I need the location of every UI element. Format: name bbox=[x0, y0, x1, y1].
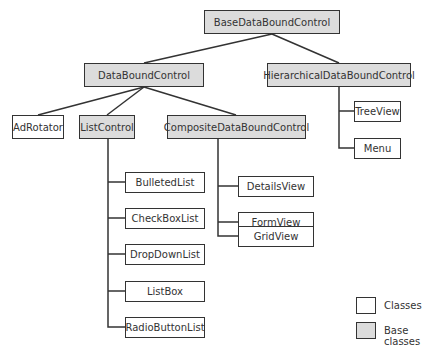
node-databoundcontrol: DataBoundControl bbox=[84, 63, 204, 87]
node-label: BulletedList bbox=[136, 177, 195, 188]
node-label: DataBoundControl bbox=[98, 70, 190, 81]
node-label: AdRotator bbox=[13, 122, 63, 133]
node-listbox: ListBox bbox=[125, 281, 205, 302]
node-bulletedlist: BulletedList bbox=[125, 172, 205, 193]
legend-classes-label: Classes bbox=[384, 300, 422, 311]
node-label: ListBox bbox=[147, 286, 183, 297]
legend-base-classes-label: Base classes bbox=[384, 325, 446, 347]
legend-base-classes-swatch bbox=[356, 322, 376, 339]
connector-lines bbox=[0, 0, 446, 350]
node-gridview: GridView bbox=[238, 226, 314, 247]
node-label: CheckBoxList bbox=[132, 213, 199, 224]
node-label: BaseDataBoundControl bbox=[214, 17, 330, 28]
node-label: HierarchicalDataBoundControl bbox=[263, 70, 415, 81]
node-compositedataboundcontrol: CompositeDataBoundControl bbox=[167, 115, 306, 139]
node-dropdownlist: DropDownList bbox=[125, 244, 205, 265]
node-menu: Menu bbox=[354, 138, 401, 159]
node-label: RadioButtonList bbox=[125, 322, 204, 333]
node-label: DetailsView bbox=[247, 181, 305, 192]
node-detailsview: DetailsView bbox=[238, 176, 314, 197]
node-listcontrol: ListControl bbox=[79, 115, 135, 139]
node-checkboxlist: CheckBoxList bbox=[125, 208, 205, 229]
node-adrotator: AdRotator bbox=[12, 115, 64, 139]
node-hierarchicaldataboundcontrol: HierarchicalDataBoundControl bbox=[267, 63, 411, 87]
node-basedataboundcontrol: BaseDataBoundControl bbox=[204, 10, 340, 34]
node-label: TreeView bbox=[355, 106, 400, 117]
node-label: GridView bbox=[254, 231, 299, 242]
node-label: ListControl bbox=[80, 122, 134, 133]
node-radiobuttonlist: RadioButtonList bbox=[125, 317, 205, 338]
node-label: Menu bbox=[364, 143, 391, 154]
node-treeview: TreeView bbox=[354, 101, 401, 122]
node-label: DropDownList bbox=[130, 249, 200, 260]
node-label: CompositeDataBoundControl bbox=[164, 122, 309, 133]
legend-classes-swatch bbox=[356, 297, 376, 314]
